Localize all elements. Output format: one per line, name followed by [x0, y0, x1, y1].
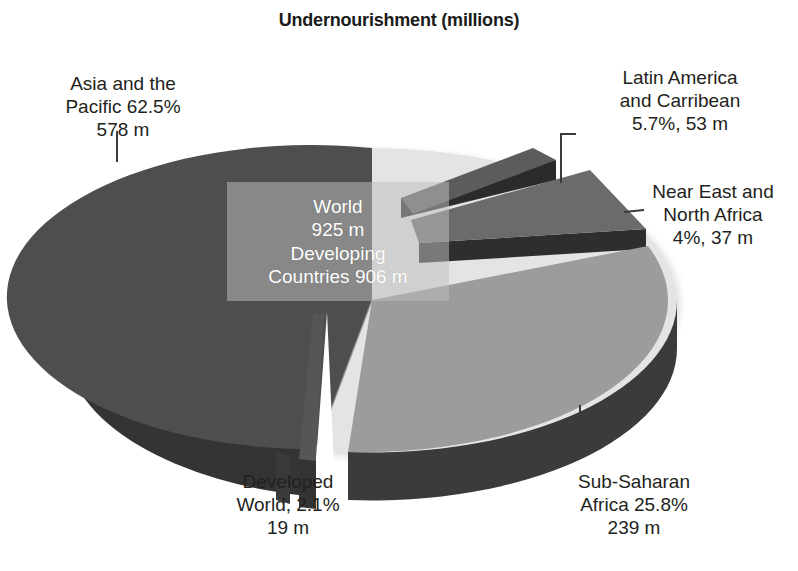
- callout-near-east-and-north-africa: Near East and North Africa 4%, 37 m: [630, 180, 796, 250]
- pie-chart-figure: Undernourishment (millions): [0, 0, 798, 571]
- callout-asia-and-the-pacific: Asia and the Pacific 62.5% 578 m: [28, 72, 218, 142]
- center-summary-box: World 925 m Developing Countries 906 m: [227, 182, 449, 301]
- callout-sub-saharan-africa: Sub-Saharan Africa 25.8% 239 m: [526, 470, 742, 540]
- callout-developed-world: Developed World, 2.1% 19 m: [188, 470, 388, 540]
- callout-latin-america-and-carribean: Latin America and Carribean 5.7%, 53 m: [572, 66, 788, 136]
- center-summary-label: World 925 m Developing Countries 906 m: [268, 195, 407, 288]
